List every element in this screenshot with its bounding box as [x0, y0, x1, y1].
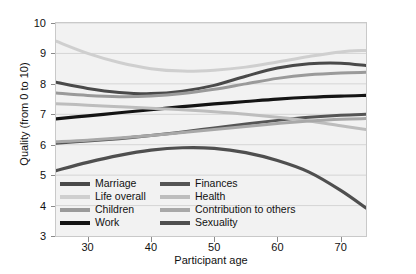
- x-tick-label-60: 60: [257, 241, 297, 253]
- legend-item-work[interactable]: Work: [60, 217, 160, 228]
- legend-swatch-icon: [160, 195, 190, 199]
- y-tick-label-10: 10: [16, 18, 46, 28]
- legend-swatch-icon: [60, 182, 90, 186]
- y-tick-label-9: 9: [16, 48, 46, 58]
- series-line-children: [56, 72, 366, 96]
- legend-label: Finances: [195, 178, 238, 189]
- y-tick-label-7: 7: [16, 109, 46, 119]
- x-tick-label-30: 30: [68, 241, 108, 253]
- x-tick-mark-30: [88, 237, 89, 242]
- legend-item-marriage[interactable]: Marriage: [60, 178, 160, 189]
- x-tick-mark-40: [151, 237, 152, 242]
- legend-item-finances[interactable]: Finances: [160, 178, 310, 189]
- y-tick-label-8: 8: [16, 79, 46, 89]
- x-tick-mark-70: [341, 237, 342, 242]
- x-tick-label-40: 40: [131, 241, 171, 253]
- legend-item-contribution-to-others[interactable]: Contribution to others: [160, 204, 310, 215]
- legend-swatch-icon: [60, 195, 90, 199]
- y-tick-label-4: 4: [16, 201, 46, 211]
- x-tick-mark-50: [214, 237, 215, 242]
- y-tick-label-3: 3: [16, 231, 46, 241]
- x-tick-mark-60: [277, 237, 278, 242]
- legend-label: Children: [95, 204, 134, 215]
- legend-label: Contribution to others: [195, 204, 295, 215]
- legend-label: Life overall: [95, 191, 146, 202]
- legend-label: Sexuality: [195, 217, 238, 228]
- legend-item-children[interactable]: Children: [60, 204, 160, 215]
- line-chart-figure: Quality (from 0 to 10) 345678910 3040506…: [0, 0, 416, 274]
- legend-swatch-icon: [160, 221, 190, 225]
- legend-label: Work: [95, 217, 119, 228]
- legend-swatch-icon: [160, 182, 190, 186]
- legend-label: Marriage: [95, 178, 136, 189]
- x-tick-label-70: 70: [321, 241, 361, 253]
- legend-label: Health: [195, 191, 225, 202]
- legend-item-health[interactable]: Health: [160, 191, 310, 202]
- y-tick-label-6: 6: [16, 140, 46, 150]
- legend-swatch-icon: [60, 221, 90, 225]
- legend-item-sexuality[interactable]: Sexuality: [160, 217, 310, 228]
- legend-swatch-icon: [60, 208, 90, 212]
- x-tick-label-50: 50: [194, 241, 234, 253]
- legend: MarriageFinancesLife overallHealthChildr…: [60, 177, 310, 229]
- legend-swatch-icon: [160, 208, 190, 212]
- x-axis-title: Participant age: [55, 254, 367, 266]
- legend-item-life-overall[interactable]: Life overall: [60, 191, 160, 202]
- y-tick-label-5: 5: [16, 170, 46, 180]
- series-line-life-overall: [56, 41, 366, 71]
